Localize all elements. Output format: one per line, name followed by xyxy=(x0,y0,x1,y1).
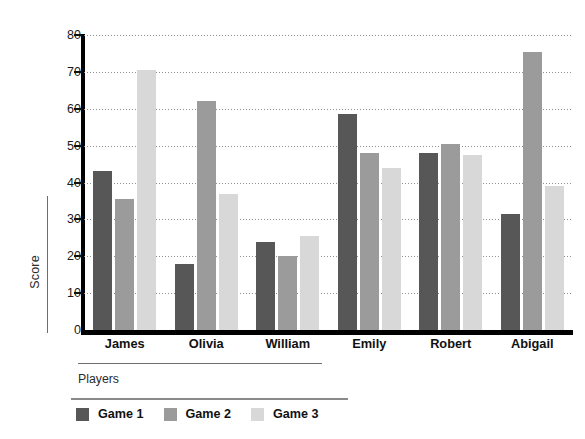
legend-rule xyxy=(71,398,348,400)
bar xyxy=(256,242,275,331)
bar xyxy=(93,171,112,330)
x-axis-category-labels: JamesOliviaWilliamEmilyRobertAbigail xyxy=(0,336,585,356)
gridline xyxy=(84,109,573,110)
bar xyxy=(197,101,216,330)
bar xyxy=(175,264,194,330)
x-category-label: Abigail xyxy=(492,336,574,351)
gridline xyxy=(84,183,573,184)
y-axis-title: Score xyxy=(28,220,42,324)
y-tick-mark xyxy=(74,182,82,184)
gridline xyxy=(84,146,573,147)
legend-label: Game 2 xyxy=(186,407,232,421)
y-tick-mark xyxy=(74,255,82,257)
legend-swatch-icon xyxy=(164,408,177,421)
gridline xyxy=(84,293,573,294)
legend-swatch-icon xyxy=(76,408,89,421)
x-axis-spine xyxy=(81,330,573,335)
y-tick-mark xyxy=(74,71,82,73)
y-tick-mark xyxy=(74,34,82,36)
bar xyxy=(137,70,156,330)
bar xyxy=(545,186,564,330)
bar xyxy=(300,236,319,330)
bar xyxy=(219,194,238,330)
y-axis-title-wrap: Score xyxy=(24,215,46,335)
chart-legend: Game 1Game 2Game 3 xyxy=(76,406,339,422)
bar xyxy=(338,114,357,330)
y-tick-mark xyxy=(74,108,82,110)
legend-label: Game 1 xyxy=(98,407,144,421)
gridline xyxy=(84,219,573,220)
gridline xyxy=(84,256,573,257)
legend-item[interactable]: Game 3 xyxy=(251,407,319,421)
x-axis-title-rule xyxy=(78,363,322,364)
bar xyxy=(463,155,482,330)
bar xyxy=(278,256,297,330)
gridline xyxy=(84,72,573,73)
bar xyxy=(382,168,401,330)
bar-chart-figure: Score 01020304050607080 JamesOliviaWilli… xyxy=(0,0,585,439)
legend-swatch-icon xyxy=(251,408,264,421)
x-category-label: Olivia xyxy=(166,336,248,351)
y-tick-mark xyxy=(74,292,82,294)
x-category-label: James xyxy=(84,336,166,351)
x-category-label: William xyxy=(247,336,329,351)
bar xyxy=(419,153,438,330)
legend-item[interactable]: Game 1 xyxy=(76,407,144,421)
x-category-label: Emily xyxy=(329,336,411,351)
legend-label: Game 3 xyxy=(273,407,319,421)
y-tick-mark xyxy=(74,145,82,147)
gridline xyxy=(84,35,573,36)
x-axis-title: Players xyxy=(78,372,119,386)
bar xyxy=(501,214,520,330)
x-category-label: Robert xyxy=(410,336,492,351)
bar xyxy=(441,144,460,330)
legend-item[interactable]: Game 2 xyxy=(164,407,232,421)
y-tick-mark xyxy=(74,218,82,220)
bar xyxy=(523,52,542,330)
bar xyxy=(360,153,379,330)
bar xyxy=(115,199,134,330)
plot-area xyxy=(84,35,573,330)
y-axis-title-rule xyxy=(47,196,48,333)
